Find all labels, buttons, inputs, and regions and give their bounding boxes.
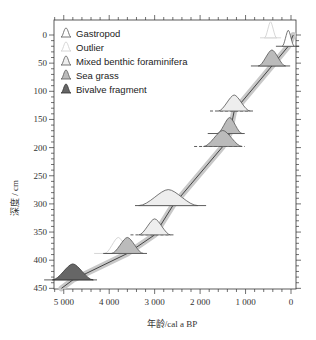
- legend-symbol-icon: [61, 56, 71, 65]
- y-axis: 050100150200250300350400450: [34, 30, 302, 293]
- y-tick-label: 50: [38, 58, 48, 68]
- legend-item: Sea grass: [61, 70, 119, 81]
- legend-symbol-icon: [61, 42, 71, 51]
- y-tick-label: 150: [34, 114, 48, 124]
- legend-label: Gastropod: [76, 28, 120, 39]
- y-tick-label: 100: [34, 86, 48, 96]
- legend-label: Sea grass: [76, 70, 119, 81]
- y-axis-title: 深度 / cm: [9, 180, 20, 216]
- y-tick-label: 300: [34, 199, 48, 209]
- legend-symbol-icon: [61, 28, 71, 37]
- date-probability-curve: [139, 190, 198, 206]
- legend-item: Outlier: [61, 42, 104, 53]
- y-tick-label: 350: [34, 227, 48, 237]
- x-tick-label: 2 000: [190, 297, 211, 307]
- y-tick-label: 450: [34, 283, 48, 293]
- age-depth-chart: 5 0004 0003 0002 0001 0000 0501001502002…: [0, 0, 316, 340]
- date-mixed-benthic-foraminifera: [135, 190, 206, 206]
- legend-label: Bivalve fragment: [76, 84, 147, 95]
- y-tick-label: 200: [34, 143, 48, 153]
- date-probability-curve: [265, 22, 277, 38]
- x-tick-label: 1 000: [235, 297, 256, 307]
- legend-item: Bivalve fragment: [61, 84, 147, 95]
- date-sea-grass: [208, 118, 245, 134]
- legend: GastropodOutlierMixed benthic foraminife…: [61, 28, 188, 95]
- x-tick-label: 0: [289, 297, 294, 307]
- legend-item: Mixed benthic foraminifera: [61, 56, 188, 67]
- legend-symbol-icon: [61, 84, 71, 93]
- x-tick-label: 4 000: [99, 297, 120, 307]
- legend-label: Outlier: [76, 42, 104, 53]
- legend-symbol-icon: [61, 70, 71, 79]
- y-tick-label: 0: [43, 30, 48, 40]
- x-axis-title: 年龄/cal a BP: [147, 318, 198, 329]
- y-tick-label: 250: [34, 171, 48, 181]
- date-mixed-benthic-foraminifera: [130, 219, 174, 235]
- legend-label: Mixed benthic foraminifera: [76, 56, 188, 67]
- x-tick-label: 5 000: [54, 297, 75, 307]
- y-tick-label: 400: [34, 255, 48, 265]
- x-tick-label: 3 000: [145, 297, 166, 307]
- legend-item: Gastropod: [61, 28, 120, 39]
- date-outlier: [260, 22, 281, 38]
